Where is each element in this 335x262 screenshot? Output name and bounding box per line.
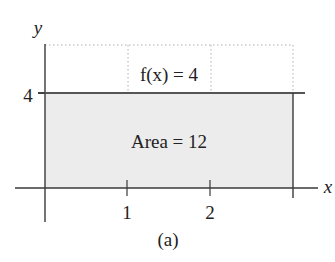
diagram-canvas: y x 4 1 2 f(x) = 4 Area = 12 (a)	[0, 0, 335, 262]
x-axis-label: x	[323, 176, 333, 197]
function-label: f(x) = 4	[140, 64, 199, 86]
figure-caption: (a)	[157, 229, 178, 251]
y-axis-label: y	[32, 17, 43, 38]
area-label: Area = 12	[131, 131, 207, 152]
x-tick-label-1: 1	[122, 202, 132, 223]
y-tick-label: 4	[23, 85, 33, 106]
x-tick-label-2: 2	[205, 202, 215, 223]
